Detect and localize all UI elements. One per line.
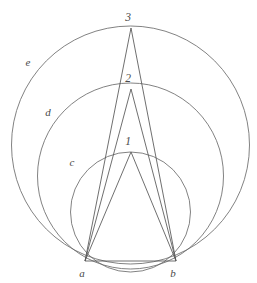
- point-label-2: 2: [125, 72, 131, 84]
- segment-b-to-2: [131, 89, 176, 261]
- circle-label-e: e: [26, 56, 31, 68]
- diagram-canvas: cde ab123: [0, 0, 257, 283]
- segment-a-to-1: [85, 152, 131, 261]
- circles-group: [12, 26, 250, 272]
- circle-d: [38, 83, 224, 269]
- segment-b-to-3: [131, 28, 176, 261]
- point-label-3: 3: [124, 11, 131, 23]
- geometry-diagram: cde ab123: [0, 0, 257, 283]
- circle-labels-group: cde: [26, 56, 75, 168]
- circle-c: [71, 152, 191, 272]
- point-label-b: b: [170, 267, 176, 279]
- segment-b-to-1: [131, 152, 176, 261]
- point-label-1: 1: [125, 135, 131, 147]
- point-labels-group: ab123: [79, 11, 176, 279]
- segment-a-to-3: [85, 28, 131, 261]
- circle-label-c: c: [70, 156, 75, 168]
- segment-a-to-2: [85, 89, 131, 261]
- point-label-a: a: [79, 267, 85, 279]
- circle-label-d: d: [45, 106, 51, 118]
